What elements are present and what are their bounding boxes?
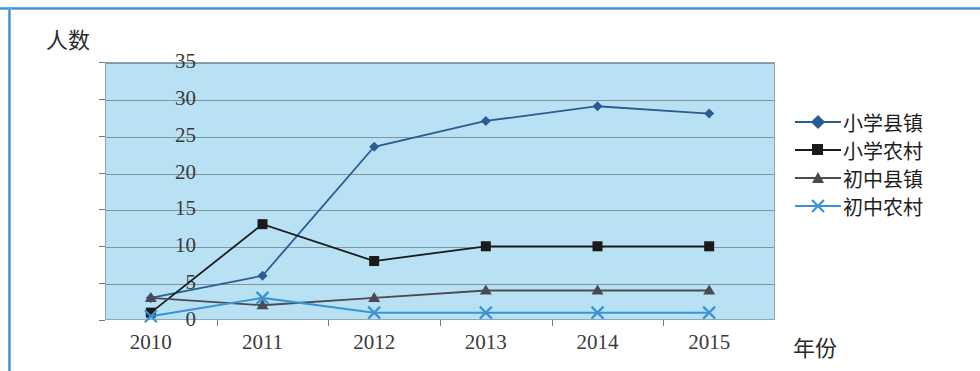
- x-tick-label: 2015: [664, 330, 754, 355]
- y-tick-label: 35: [136, 51, 196, 72]
- y-tick-mark: [99, 136, 105, 137]
- chart-page: 人数 年份 0510152025303520102011201220132014…: [0, 0, 980, 371]
- y-tick-mark: [99, 99, 105, 100]
- x-tick-mark: [328, 320, 329, 326]
- legend-item-3[interactable]: 初中农村: [795, 192, 975, 220]
- legend-label: 小学县镇: [843, 108, 923, 137]
- y-tick-mark: [99, 320, 105, 321]
- y-tick-label: 20: [136, 162, 196, 183]
- legend-item-0[interactable]: 小学县镇: [795, 108, 975, 136]
- chart-legend: 小学县镇小学农村初中县镇初中农村: [795, 108, 975, 220]
- legend-item-1[interactable]: 小学农村: [795, 136, 975, 164]
- y-tick-mark: [99, 283, 105, 284]
- legend-item-2[interactable]: 初中县镇: [795, 164, 975, 192]
- x-tick-label: 2012: [329, 330, 419, 355]
- legend-label: 初中县镇: [843, 164, 923, 193]
- y-tick-mark: [99, 246, 105, 247]
- y-tick-mark: [99, 209, 105, 210]
- x-tick-mark: [663, 320, 664, 326]
- y-tick-label: 25: [136, 125, 196, 146]
- x-tick-label: 2014: [553, 330, 643, 355]
- legend-swatch-diamond-icon: [795, 113, 841, 131]
- y-tick-mark: [99, 62, 105, 63]
- y-tick-mark: [99, 173, 105, 174]
- y-tick-label: 5: [136, 272, 196, 293]
- x-tick-label: 2013: [441, 330, 531, 355]
- y-tick-label: 10: [136, 235, 196, 256]
- line-chart: 人数 年份 0510152025303520102011201220132014…: [0, 0, 980, 371]
- legend-swatch-triangle-icon: [795, 169, 841, 187]
- legend-label: 初中农村: [843, 192, 923, 221]
- x-tick-mark: [440, 320, 441, 326]
- legend-swatch-square-icon: [795, 141, 841, 159]
- x-tick-mark: [217, 320, 218, 326]
- x-tick-label: 2011: [218, 330, 308, 355]
- x-tick-label: 2010: [106, 330, 196, 355]
- y-tick-label: 30: [136, 88, 196, 109]
- y-tick-label: 15: [136, 198, 196, 219]
- y-tick-label: 0: [136, 309, 196, 330]
- x-tick-mark: [552, 320, 553, 326]
- legend-swatch-x-icon: [795, 197, 841, 215]
- legend-label: 小学农村: [843, 136, 923, 165]
